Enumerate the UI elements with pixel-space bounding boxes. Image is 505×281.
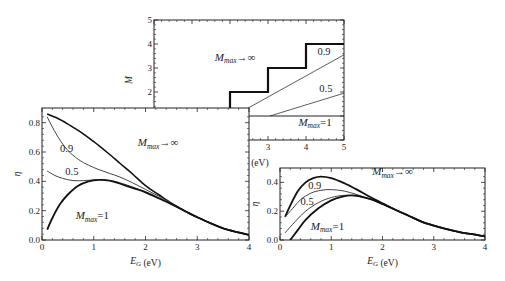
x-tick-label: 4 — [304, 142, 309, 152]
y-tick-label: 0.2 — [267, 206, 278, 216]
x-tick-label: 3 — [195, 242, 200, 252]
y-axis-label: η — [250, 201, 260, 206]
y-tick-label: 0.6 — [29, 147, 41, 157]
series-annotation: 0.5 — [319, 83, 332, 94]
y-tick-label: 5 — [148, 15, 153, 25]
x-tick-label: 4 — [483, 242, 488, 252]
y-tick-label: 0.4 — [29, 176, 41, 186]
y-axis-label: M — [124, 75, 134, 85]
x-tick-label: 5 — [342, 142, 347, 152]
y-tick-label: 0.0 — [29, 235, 41, 245]
x-tick-label: 2 — [380, 242, 385, 252]
y-axis-label: η — [12, 171, 22, 176]
x-tick-label: 1 — [329, 242, 334, 252]
x-tick-label: 0 — [278, 242, 283, 252]
y-tick-label: 0.8 — [29, 118, 41, 128]
y-tick-label: 0.2 — [29, 206, 40, 216]
x-tick-label: 3 — [432, 242, 437, 252]
x-tick-label: 1 — [92, 242, 97, 252]
series-annotation: 0.9 — [317, 46, 330, 57]
x-axis-label: EG (eV) — [129, 256, 161, 269]
x-tick-label: 3 — [266, 142, 271, 152]
x-axis-label: EG (eV) — [366, 256, 398, 269]
x-tick-label: 2 — [143, 242, 148, 252]
series-annotation: 0.9 — [308, 180, 321, 191]
y-tick-label: 4 — [148, 39, 153, 49]
series-annotation: 0.5 — [65, 166, 78, 177]
y-tick-label: 0.0 — [267, 235, 279, 245]
chart-efficiency-right: 012340.00.20.4EG (eV)ηMmax→∞0.90.5Mmax=1 — [250, 165, 488, 269]
y-tick-label: 3 — [148, 63, 153, 73]
series-annotation: 0.5 — [301, 196, 314, 207]
series-annotation: 0.9 — [60, 143, 73, 154]
x-tick-label: 0 — [40, 242, 45, 252]
y-tick-label: 2 — [148, 87, 153, 97]
x-tick-label: 4 — [247, 242, 252, 252]
chart-efficiency-left: 012340.00.20.40.60.8EG (eV)ηMmax→∞0.90.5… — [12, 108, 252, 269]
figure: 012345012345E/EG (eV)MMmax→∞0.90.5Mmax=1… — [0, 0, 505, 281]
y-tick-label: 0.4 — [267, 177, 279, 187]
